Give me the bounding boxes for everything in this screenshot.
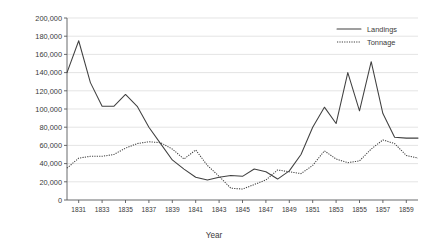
y-tick-label: 180,000 bbox=[35, 32, 62, 41]
x-tick-label: 1851 bbox=[305, 206, 320, 213]
x-tick-label: 1831 bbox=[71, 206, 86, 213]
chart-canvas: 020,00040,00060,00080,000100,000120,0001… bbox=[0, 0, 428, 248]
y-tick-label: 20,000 bbox=[39, 178, 62, 187]
y-tick-label: 160,000 bbox=[35, 50, 62, 59]
line-chart: 020,00040,00060,00080,000100,000120,0001… bbox=[0, 0, 428, 248]
x-tick-label: 1841 bbox=[188, 206, 203, 213]
x-tick-label: 1849 bbox=[282, 206, 297, 213]
x-tick-label: 1833 bbox=[95, 206, 110, 213]
x-tick-label: 1853 bbox=[329, 206, 344, 213]
x-tick-label: 1855 bbox=[352, 206, 367, 213]
y-tick-label: 140,000 bbox=[35, 68, 62, 77]
y-tick-label: 0 bbox=[58, 196, 62, 205]
y-axis-tick-labels: 020,00040,00060,00080,000100,000120,0001… bbox=[35, 14, 62, 205]
x-tick-label: 1839 bbox=[165, 206, 180, 213]
x-tick-label: 1843 bbox=[212, 206, 227, 213]
y-tick-label: 40,000 bbox=[39, 159, 62, 168]
legend-label-tonnage: Tonnage bbox=[367, 38, 395, 47]
series-line-landings bbox=[67, 41, 418, 180]
x-tick-label: 1837 bbox=[142, 206, 157, 213]
x-tick-label: 1845 bbox=[235, 206, 250, 213]
x-tick-label: 1857 bbox=[376, 206, 391, 213]
legend: LandingsTonnage bbox=[337, 25, 397, 47]
y-tick-label: 200,000 bbox=[35, 14, 62, 23]
x-tick-label: 1859 bbox=[399, 206, 414, 213]
y-tick-label: 120,000 bbox=[35, 87, 62, 96]
x-axis-title: Year bbox=[206, 231, 223, 240]
x-tick-label: 1847 bbox=[259, 206, 274, 213]
x-tick-label: 1835 bbox=[118, 206, 133, 213]
x-axis-tick-labels: 1831183318351837183918411843184518471849… bbox=[71, 206, 414, 213]
legend-label-landings: Landings bbox=[367, 25, 397, 34]
y-tick-label: 60,000 bbox=[39, 141, 62, 150]
y-tick-label: 80,000 bbox=[39, 123, 62, 132]
y-tick-label: 100,000 bbox=[35, 105, 62, 114]
